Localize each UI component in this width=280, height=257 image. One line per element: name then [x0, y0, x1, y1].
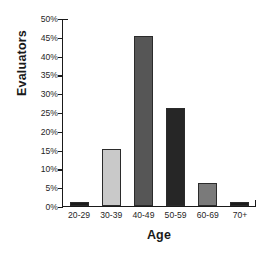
- bar-slot: [192, 19, 224, 206]
- bar-chart: Evaluators 0%5%10%15%20%25%30%35%40%45%5…: [0, 0, 280, 257]
- y-axis-tick-label: 10%: [18, 164, 58, 174]
- y-axis-tick-label: 0%: [18, 202, 58, 212]
- bar-slot: [224, 19, 256, 206]
- y-axis-tick-label: 5%: [18, 183, 58, 193]
- y-axis-tick-label: 45%: [18, 33, 58, 43]
- x-axis-tick-labels: 20-2930-3940-4950-5960-6970+: [63, 210, 256, 220]
- bar-30-39[interactable]: [102, 149, 121, 205]
- y-axis-tick-mark: [58, 132, 63, 133]
- y-axis-tick-mark: [58, 151, 63, 152]
- x-axis-line: [62, 206, 256, 207]
- x-axis-tick-label: 60-69: [192, 210, 224, 220]
- y-axis-tick-labels: 0%5%10%15%20%25%30%35%40%45%50%: [18, 14, 58, 207]
- bar-slot: [127, 19, 159, 206]
- bar-60-69[interactable]: [198, 183, 217, 206]
- y-axis-tick-label: 50%: [18, 14, 58, 24]
- bar-slot: [63, 19, 95, 206]
- y-axis-tick-mark: [58, 75, 63, 76]
- bar-40-49[interactable]: [134, 36, 153, 205]
- y-axis-tick-mark: [58, 169, 63, 170]
- bar-20-29[interactable]: [70, 202, 89, 206]
- x-axis-title: Age: [62, 228, 256, 242]
- bar-70+[interactable]: [230, 202, 249, 206]
- y-axis-tick-mark: [58, 113, 63, 114]
- y-axis-tick-label: 15%: [18, 146, 58, 156]
- y-axis-tick-label: 20%: [18, 127, 58, 137]
- bars-container: [63, 19, 256, 206]
- x-axis-tick-label: 50-59: [160, 210, 192, 220]
- y-axis-tick-mark: [58, 207, 63, 208]
- y-axis-tick-label: 35%: [18, 70, 58, 80]
- y-axis-tick-label: 30%: [18, 89, 58, 99]
- x-axis-tick-label: 70+: [224, 210, 256, 220]
- y-axis-tick-mark: [58, 188, 63, 189]
- bar-slot: [160, 19, 192, 206]
- y-axis-tick-label: 25%: [18, 108, 58, 118]
- plot-area: [62, 19, 256, 207]
- x-axis-tick-label: 30-39: [95, 210, 127, 220]
- y-axis-tick-mark: [58, 38, 63, 39]
- y-axis-tick-label: 40%: [18, 52, 58, 62]
- bar-slot: [95, 19, 127, 206]
- y-axis-tick-mark: [58, 57, 63, 58]
- y-axis-tick-mark: [58, 94, 63, 95]
- bar-50-59[interactable]: [166, 108, 185, 206]
- y-axis-tick-mark: [58, 19, 63, 20]
- x-axis-tick-label: 40-49: [127, 210, 159, 220]
- x-axis-tick-label: 20-29: [63, 210, 95, 220]
